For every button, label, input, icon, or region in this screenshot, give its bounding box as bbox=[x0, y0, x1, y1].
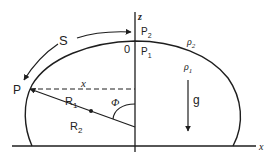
arc-length-arrow-right bbox=[77, 32, 131, 38]
center-of-curvature-dot bbox=[89, 109, 93, 113]
pressure-outer-label: P2 bbox=[141, 26, 152, 39]
origin-label: 0 bbox=[124, 43, 130, 55]
arc-length-label: S bbox=[59, 33, 68, 48]
horizontal-distance-label: x bbox=[80, 77, 86, 89]
x-axis-label: x bbox=[258, 141, 264, 152]
z-axis-label: z bbox=[137, 11, 142, 22]
density-outer-label: ρ2 bbox=[186, 36, 196, 50]
angle-label: Φ bbox=[111, 96, 120, 108]
density-inner-label: ρ1 bbox=[183, 61, 192, 75]
pressure-inner-label: P1 bbox=[141, 46, 152, 59]
radius-2-label: R2 bbox=[70, 120, 83, 135]
radius-1-label: R1 bbox=[65, 95, 78, 110]
gravity-label: g bbox=[193, 93, 200, 107]
arc-length-arrow bbox=[24, 44, 58, 80]
drop-outline bbox=[25, 41, 240, 146]
sessile-drop-diagram: x z S 0 P x R1 R2 Φ P2 P1 ρ2 ρ1 g bbox=[0, 0, 274, 155]
point-p-label: P bbox=[13, 83, 21, 97]
